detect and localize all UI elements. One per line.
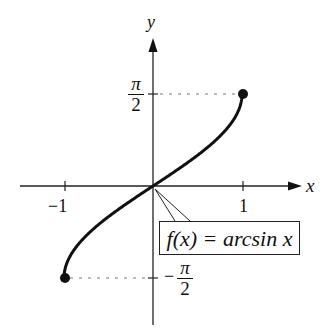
pi-symbol: π — [177, 259, 193, 277]
y-tick-label-neg-pi-half: π 2 — [177, 259, 193, 298]
function-label: f(x) = arcsin x — [167, 226, 293, 251]
x-axis-arrow-icon — [288, 182, 302, 191]
chart: y x −1 1 π 2 − π 2 f(x) = arcsin x — [0, 0, 333, 329]
y-axis-label: y — [147, 12, 155, 33]
x-axis-label: x — [306, 175, 314, 197]
x-tick-label-1: 1 — [239, 196, 248, 217]
pi-symbol: π — [128, 75, 144, 93]
endpoint-bottom — [60, 273, 70, 283]
endpoint-top — [238, 89, 248, 99]
y-axis-arrow-icon — [149, 38, 158, 52]
denominator: 2 — [177, 280, 193, 298]
denominator: 2 — [128, 96, 144, 114]
y-tick-label-pi-half: π 2 — [128, 75, 144, 114]
callout-pointer — [155, 189, 190, 221]
minus-sign: − — [164, 266, 174, 287]
function-label-box: f(x) = arcsin x — [159, 221, 300, 255]
x-tick-label-neg1: −1 — [48, 196, 67, 217]
